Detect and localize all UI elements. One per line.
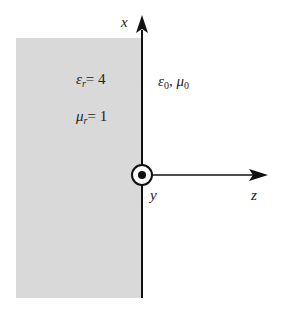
y-axis-dot-icon bbox=[138, 171, 146, 179]
free-space-label: ε0, μ0 bbox=[158, 74, 189, 91]
z-axis-label: z bbox=[251, 188, 257, 203]
mu0-symbol: μ bbox=[176, 73, 184, 89]
x-axis-label: x bbox=[121, 15, 128, 30]
relative-permittivity-label: εr= 4 bbox=[76, 72, 106, 89]
epsilon-value: = 4 bbox=[86, 71, 106, 87]
mu0-subscript: 0 bbox=[184, 80, 189, 91]
mu-value: = 1 bbox=[87, 108, 107, 124]
y-axis-label: y bbox=[150, 188, 157, 203]
relative-permeability-label: μr= 1 bbox=[76, 109, 107, 126]
diagram-canvas bbox=[0, 0, 283, 312]
mu-symbol: μ bbox=[76, 108, 84, 124]
